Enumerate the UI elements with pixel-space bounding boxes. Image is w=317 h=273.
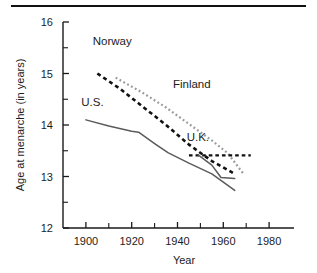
series-label-norway: Norway (93, 35, 132, 47)
series-label-u-s: U.S. (81, 96, 103, 108)
series-label-u-k: U.K. (187, 131, 209, 143)
series-branch-u-k (198, 155, 235, 179)
menarche-line-chart: 1213141516 19001920194019601980 NorwayFi… (0, 0, 317, 273)
series-line-finland (116, 78, 244, 175)
x-axis-tick-labels: 19001920194019601980 (74, 235, 282, 247)
series-paths-group (86, 74, 251, 191)
series-line-u-s (86, 120, 235, 191)
figure-container: 1213141516 19001920194019601980 NorwayFi… (0, 0, 317, 273)
y-axis-ticks (63, 22, 69, 228)
x-tick-label: 1980 (257, 235, 281, 247)
series-label-finland: Finland (173, 78, 211, 90)
y-tick-label: 15 (41, 68, 53, 80)
y-tick-label: 14 (41, 119, 53, 131)
y-axis-tick-labels: 1213141516 (41, 16, 53, 234)
y-tick-label: 13 (41, 171, 53, 183)
x-axis-title: Year (173, 254, 196, 266)
x-axis-ticks (86, 222, 269, 228)
y-axis-title: Age at menarche (in years) (14, 59, 26, 192)
x-tick-label: 1940 (165, 235, 189, 247)
series-annotation-labels: NorwayFinlandU.S.U.K. (81, 35, 210, 143)
series-line-norway (97, 74, 234, 174)
y-tick-label: 16 (41, 16, 53, 28)
x-tick-label: 1960 (211, 235, 235, 247)
axes-group (63, 22, 294, 228)
x-tick-label: 1920 (119, 235, 143, 247)
y-tick-label: 12 (41, 222, 53, 234)
x-tick-label: 1900 (74, 235, 98, 247)
